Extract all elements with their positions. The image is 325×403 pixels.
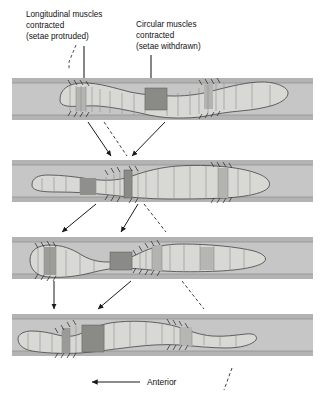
earthworm-locomotion-figure: Longitudinal muscles contracted (setae p… <box>0 0 325 403</box>
longitudinal-block-2a <box>80 178 96 195</box>
label-longitudinal-muscles: Longitudinal muscles contracted (setae p… <box>26 10 102 41</box>
diagram-canvas: Longitudinal muscles contracted (setae p… <box>0 0 325 403</box>
longitudinal-leader-dashed <box>69 45 76 70</box>
transition-dashed-2a <box>144 204 166 232</box>
label-circular-muscles: Circular muscles contracted (setae withd… <box>136 20 201 51</box>
longitudinal-label-line1: Longitudinal muscles <box>26 10 102 19</box>
circular-block-3 <box>110 252 132 270</box>
longitudinal-block-2b <box>218 168 228 198</box>
anterior-label: Anterior <box>147 377 177 387</box>
circular-block-2 <box>124 170 132 198</box>
circular-block-4 <box>82 325 104 352</box>
panel-stage-2 <box>12 160 313 203</box>
longitudinal-block-3c <box>200 247 214 270</box>
transition-arrow-1b <box>132 122 165 156</box>
circular-block-1 <box>145 88 167 110</box>
longitudinal-block-4b <box>180 327 192 346</box>
transition-arrow-3b <box>98 281 131 309</box>
longitudinal-label-line2: contracted <box>26 21 65 30</box>
transition-arrow-2b <box>121 204 138 232</box>
longitudinal-block-1b <box>204 83 213 109</box>
circular-label-line2: contracted <box>136 31 175 40</box>
panel-stage-1 <box>12 78 313 120</box>
longitudinal-block-3b <box>152 245 162 271</box>
longitudinal-label-line3: (setae protruded) <box>26 32 89 41</box>
transition-dashed-3a <box>182 281 204 309</box>
panel-stage-3 <box>12 237 313 281</box>
circular-label-line3: (setae withdrawn) <box>136 42 201 51</box>
panel-stage-4 <box>12 314 313 358</box>
trailing-dashed-line <box>224 368 232 390</box>
longitudinal-block-4a <box>62 328 70 354</box>
anterior-direction-indicator: Anterior <box>92 368 232 390</box>
transition-arrow-2a <box>62 204 96 232</box>
circular-label-line1: Circular muscles <box>136 20 197 29</box>
